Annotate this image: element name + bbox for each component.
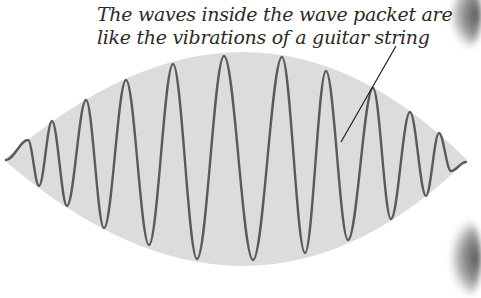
wave-packet-envelope xyxy=(4,52,467,266)
page-curl-shadow-bottom xyxy=(451,218,481,298)
caption-line-2: like the vibrations of a guitar string xyxy=(97,28,430,47)
caption-line-1: The waves inside the wave packet are xyxy=(97,5,452,24)
